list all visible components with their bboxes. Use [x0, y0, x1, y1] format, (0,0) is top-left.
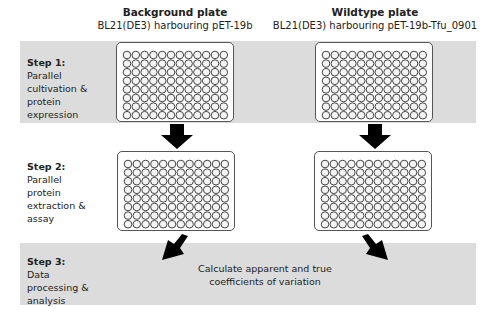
step-3-line: analysis [27, 294, 89, 307]
arrow-down-icon [358, 124, 392, 150]
calc-line-1: Calculate apparent and true [190, 262, 340, 275]
background-plate-step1 [116, 42, 234, 122]
wildtype-plate-step1 [315, 42, 433, 122]
wildtype-plate-title: Wildtype plate [270, 6, 480, 19]
background-plate-subtitle: BL21(DE3) harbouring pET-19b [97, 20, 252, 31]
wildtype-plate-subtitle: BL21(DE3) harbouring pET-19b-Tfu_0901 [273, 20, 477, 31]
step-2-line: Parallel [27, 173, 86, 186]
step-2-title: Step 2: [27, 160, 86, 173]
step-3-line: processing & [27, 281, 89, 294]
calc-line-2: coefficients of variation [190, 275, 340, 288]
step-1-label: Step 1: Parallel cultivation & protein e… [27, 56, 87, 121]
wildtype-plate-step2 [314, 151, 432, 231]
background-plate-header: Background plate BL21(DE3) harbouring pE… [90, 6, 260, 32]
arrow-down-icon [160, 124, 194, 150]
arrow-diagonal-icon [160, 234, 190, 262]
wildtype-plate-header: Wildtype plate BL21(DE3) harbouring pET-… [270, 6, 480, 32]
step-2-line: protein [27, 186, 86, 199]
step-2-label: Step 2: Parallel protein extraction & as… [27, 160, 86, 225]
step-1-line: Parallel [27, 69, 87, 82]
background-plate-step2 [117, 151, 235, 231]
calculate-cv-text: Calculate apparent and true coefficients… [190, 262, 340, 288]
step-3-label: Step 3: Data processing & analysis [27, 255, 89, 307]
step-3-line: Data [27, 268, 89, 281]
step-1-line: cultivation & [27, 82, 87, 95]
step-2-line: assay [27, 212, 86, 225]
step-1-title: Step 1: [27, 56, 87, 69]
step-2-line: extraction & [27, 199, 86, 212]
step-1-line: protein [27, 95, 87, 108]
arrow-diagonal-icon [360, 234, 390, 262]
step-3-title: Step 3: [27, 255, 89, 268]
background-plate-title: Background plate [90, 6, 260, 19]
step-1-line: expression [27, 108, 87, 121]
